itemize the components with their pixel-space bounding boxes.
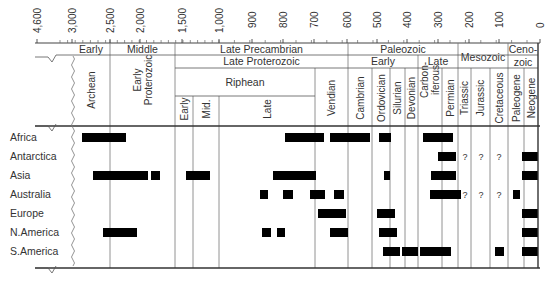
header-period-label: Late — [262, 99, 273, 119]
range-bar — [330, 228, 348, 237]
range-bar — [379, 133, 391, 142]
axis-tick-label: 600 — [342, 11, 353, 28]
unknown-marker: ? — [478, 190, 483, 200]
axis-tick-label: 4,600 — [32, 8, 43, 33]
header-period-label: Early — [179, 98, 190, 121]
range-bar — [377, 209, 395, 218]
continent-label: Antarctica — [10, 150, 57, 162]
range-bar — [383, 247, 400, 256]
range-bar — [522, 247, 538, 256]
range-bar — [151, 171, 160, 180]
axis-tick-label: 2,500 — [105, 8, 116, 33]
range-bar — [93, 171, 148, 180]
range-bar — [103, 228, 137, 237]
header-riphean-label: Riphean — [225, 76, 264, 88]
header-period-label: Jurassic — [475, 80, 486, 117]
header-era-label: Late Precambrian — [220, 43, 303, 55]
range-bar — [273, 171, 316, 180]
header-period-label: Early — [132, 69, 143, 92]
header-period-label: Silurian — [392, 81, 403, 114]
continent-row: S.America — [10, 245, 538, 257]
header-period-label: Permian — [445, 79, 456, 116]
header-subera-label: Early — [371, 55, 396, 67]
range-bar — [522, 228, 538, 237]
header-period-label: Cretaceous — [494, 72, 505, 123]
geologic-timeline-chart: 4,6003,0002,5002,0001,5001,0009008007006… — [0, 0, 548, 282]
axis-tick-label: 500 — [372, 11, 383, 28]
axis-tick-label: 3,000 — [67, 8, 78, 33]
range-bar — [277, 228, 285, 237]
axis-tick-label: 300 — [433, 11, 444, 28]
header-period-label: Ordovician — [376, 74, 387, 122]
axis-tick-label: 700 — [309, 11, 320, 28]
range-bar — [438, 152, 456, 161]
range-bar — [82, 133, 126, 142]
continent-label: N.America — [10, 226, 59, 238]
range-bar — [522, 171, 538, 180]
continent-rows: AfricaAntarctica???AsiaAustralia???Europ… — [10, 131, 538, 257]
range-bar — [522, 209, 538, 218]
axis-tick-label: 2,000 — [135, 8, 146, 33]
unknown-marker: ? — [462, 190, 467, 200]
axis-tick-label: 200 — [464, 11, 475, 28]
header-era-label: zoic — [514, 56, 533, 68]
header-era-label: Middle — [127, 43, 158, 55]
axis-tick-label: 800 — [278, 11, 289, 28]
header-subera-label: Late Proterozoic — [223, 55, 299, 67]
range-bar — [420, 247, 451, 256]
age-axis: 4,6003,0002,5002,0001,5001,0009008007006… — [32, 8, 546, 43]
continent-label: Australia — [10, 188, 51, 200]
range-bar — [384, 171, 390, 180]
unknown-marker: ? — [462, 152, 467, 162]
continent-label: Asia — [10, 169, 31, 181]
axis-tick-label: 1,500 — [177, 8, 188, 33]
range-bar — [379, 228, 397, 237]
header-era-label: Paleozoic — [380, 43, 426, 55]
axis-tick-label: 100 — [494, 11, 505, 28]
unknown-marker: ? — [496, 190, 501, 200]
range-bar — [431, 171, 456, 180]
unknown-marker: ? — [478, 152, 483, 162]
range-bar — [334, 190, 344, 199]
range-bar — [283, 190, 293, 199]
header-period-label: Mid. — [201, 100, 212, 119]
range-bar — [285, 133, 324, 142]
header-era-label: Ceno- — [509, 43, 538, 55]
range-bar — [522, 152, 538, 161]
continent-label: S.America — [10, 245, 59, 257]
continent-row: Australia??? — [10, 188, 520, 200]
range-bar — [260, 190, 268, 199]
axis-tick-label: 1,000 — [214, 8, 225, 33]
range-bar — [430, 190, 461, 199]
axis-tick-label: 400 — [402, 11, 413, 28]
axis-break-mark — [35, 55, 72, 62]
header-period-label: Proterozoic — [143, 55, 154, 106]
range-bar — [318, 209, 346, 218]
continent-row: N.America — [10, 226, 538, 238]
header-period-label: Vendian — [326, 80, 337, 116]
axis-break-mark — [35, 124, 56, 131]
range-bar — [262, 228, 271, 237]
range-bar — [513, 190, 520, 199]
range-bar — [423, 133, 453, 142]
axis-tick-label: 900 — [247, 11, 258, 28]
range-bar — [310, 190, 325, 199]
unknown-marker: ? — [496, 152, 501, 162]
header-period-label: Archean — [86, 71, 97, 108]
header-period-label: Cambrian — [355, 76, 366, 119]
range-bar — [186, 171, 210, 180]
header-period-label: Triassic — [459, 81, 470, 115]
wavy-break-line — [72, 56, 75, 266]
header-period-label: iferous — [430, 65, 441, 95]
header-period-label: Paleogene — [511, 74, 522, 122]
continent-row: Europe — [10, 207, 538, 219]
header-era-label: Early — [79, 43, 104, 55]
continent-row: Asia — [10, 169, 538, 181]
range-bar — [495, 247, 504, 256]
header-era-label: Mesozoic — [461, 51, 505, 63]
range-bar — [330, 133, 370, 142]
axis-break-mark — [35, 266, 56, 273]
axis-tick-label: 0 — [535, 22, 546, 28]
header-period-label: Carbon- — [419, 62, 430, 98]
range-bar — [402, 247, 418, 256]
